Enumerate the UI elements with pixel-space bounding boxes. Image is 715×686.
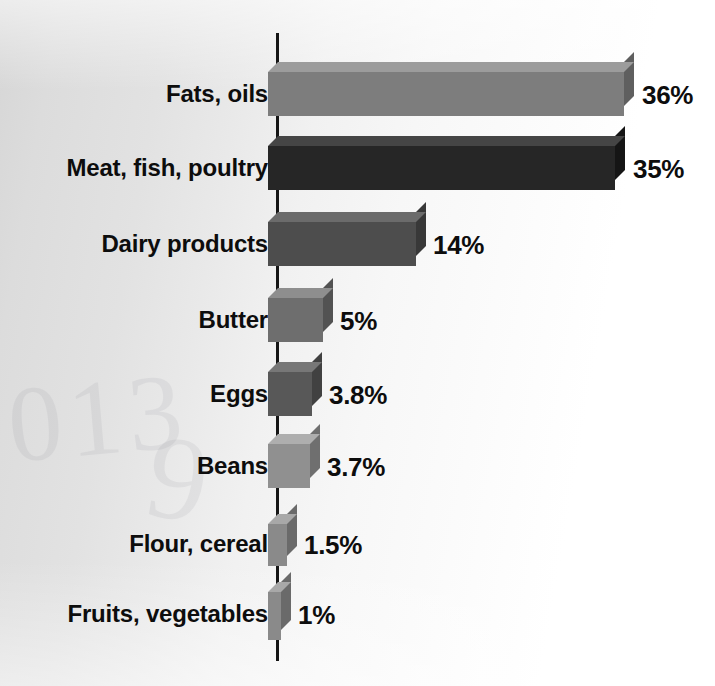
bar-4 xyxy=(268,288,323,332)
bar-top-face xyxy=(268,212,426,222)
category-label: Fats, oils xyxy=(166,82,268,106)
value-label: 3.8% xyxy=(329,382,387,408)
category-label: Eggs xyxy=(210,382,268,406)
bar-7 xyxy=(268,514,287,556)
bar-top-face xyxy=(268,62,634,72)
bar-front-face xyxy=(268,146,615,190)
category-axis-line xyxy=(276,33,279,661)
category-label: Dairy products xyxy=(101,232,268,256)
category-label: Meat, fish, poultry xyxy=(66,156,268,180)
bar-2 xyxy=(268,136,615,180)
bar-side-face xyxy=(416,202,426,256)
bar-front-face xyxy=(268,72,624,116)
bar-front-face xyxy=(268,592,281,640)
category-label: Beans xyxy=(197,454,268,478)
bar-front-face xyxy=(268,298,323,342)
category-label: Butter xyxy=(199,308,268,332)
bar-chart: 013 9 Fats, oils36%Meat, fish, poultry35… xyxy=(0,0,715,686)
bar-1 xyxy=(268,62,624,106)
bar-6 xyxy=(268,434,310,478)
bar-3 xyxy=(268,212,416,256)
bar-5 xyxy=(268,362,312,406)
value-label: 3.7% xyxy=(327,454,385,480)
bar-side-face xyxy=(323,278,333,332)
bar-front-face xyxy=(268,524,287,566)
bar-front-face xyxy=(268,444,310,488)
value-label: 36% xyxy=(642,82,693,108)
value-label: 14% xyxy=(433,232,484,258)
category-label: Fruits, vegetables xyxy=(68,602,268,626)
value-label: 5% xyxy=(340,308,377,334)
bar-side-face xyxy=(281,572,291,630)
bar-top-face xyxy=(268,288,333,298)
bar-side-face xyxy=(615,126,625,180)
bar-side-face xyxy=(287,504,297,556)
bar-side-face xyxy=(624,52,634,106)
plot-area: Fats, oils36%Meat, fish, poultry35%Dairy… xyxy=(0,0,715,686)
value-label: 1% xyxy=(298,602,335,628)
category-label: Flour, cereal xyxy=(129,532,268,556)
value-label: 1.5% xyxy=(304,532,362,558)
bar-side-face xyxy=(312,352,322,406)
bar-8 xyxy=(268,582,281,630)
value-label: 35% xyxy=(633,156,684,182)
bar-top-face xyxy=(268,136,625,146)
bar-front-face xyxy=(268,372,312,416)
bar-front-face xyxy=(268,222,416,266)
bar-side-face xyxy=(310,424,320,478)
